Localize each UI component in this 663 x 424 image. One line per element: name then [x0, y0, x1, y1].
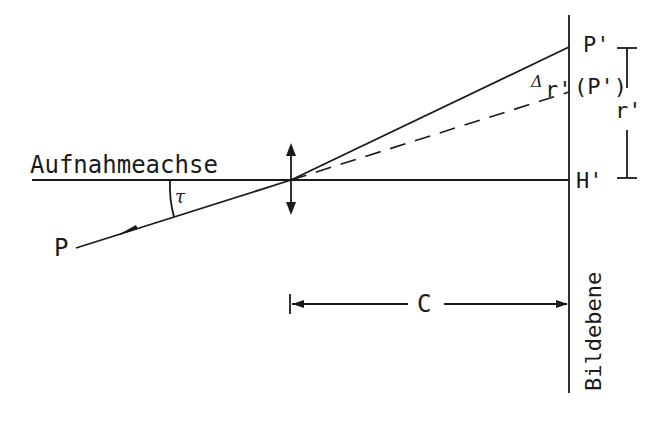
optics-diagram: Aufnahmeachse P τ P' (P') H' Δ r' r' C B… — [0, 0, 663, 424]
outgoing-ray-actual — [291, 47, 569, 180]
radial-distance-label: r' — [615, 98, 642, 123]
principal-point-label: H' — [576, 168, 603, 193]
object-point-label: P — [54, 234, 68, 262]
distortion-delta-symbol: Δ — [530, 72, 543, 91]
lens-arrow-up-icon — [286, 143, 296, 156]
axis-label: Aufnahmeachse — [30, 151, 218, 179]
angle-tau-arc — [170, 180, 174, 217]
c-dim-left-arrow-icon — [292, 300, 304, 308]
c-dim-right-arrow-icon — [556, 300, 568, 308]
camera-constant-label: C — [417, 290, 431, 318]
image-plane-label: Bildebene — [581, 272, 606, 391]
angle-tau-label: τ — [175, 186, 186, 207]
outgoing-ray-ideal-dashed — [291, 92, 569, 180]
ray-direction-arrow-icon — [116, 225, 138, 236]
lens-arrow-down-icon — [286, 202, 296, 215]
ideal-image-point-label: (P') — [574, 74, 627, 99]
image-point-label: P' — [583, 32, 610, 57]
distortion-r-label: r' — [545, 77, 572, 102]
